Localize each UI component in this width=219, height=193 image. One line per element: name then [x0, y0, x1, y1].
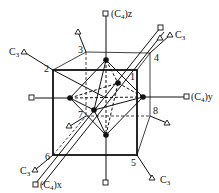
c4y-square-icon [184, 94, 189, 99]
c4y-left-square-icon [29, 95, 34, 100]
c3-triangle-icon [157, 35, 163, 40]
axis-label-c3-lower-left: C3 [20, 166, 30, 179]
c4z-bottom-square-icon [103, 180, 108, 185]
corner-label-4: 4 [154, 53, 159, 63]
corner-label-1: 1 [130, 72, 135, 82]
corner-label-7: 7 [78, 110, 83, 120]
c4x-top-square-icon [158, 25, 163, 30]
c3-triangle-icon [21, 49, 27, 54]
diagram-canvas [0, 0, 219, 193]
axis-label-c4x: (C4)x [40, 180, 62, 193]
corner-label-3: 3 [78, 45, 83, 55]
c4z-square-icon [103, 11, 108, 16]
corner-label-6: 6 [45, 152, 50, 162]
c3-triangle-icon [167, 32, 173, 37]
axis-label-c3-upper-left: C3 [9, 47, 19, 60]
axis-label-c3-lower-right: C3 [160, 175, 170, 188]
axis-label-c3-upper-right: C3 [175, 30, 185, 43]
corner-label-5: 5 [131, 158, 136, 168]
c3-triangle-icon [149, 175, 155, 180]
axis-label-c4z: (C4)z [111, 9, 132, 22]
c4x-square-icon [33, 182, 38, 187]
corner-label-8: 8 [153, 106, 158, 116]
cube-octahedron-diagram: 1 2 3 4 5 6 7 8 (C4)z (C4)y (C4)x C3 C3 … [0, 0, 219, 193]
c3-triangle-icon [75, 29, 81, 34]
axis-label-c4y: (C4)y [191, 92, 213, 105]
corner-label-2: 2 [44, 64, 49, 74]
